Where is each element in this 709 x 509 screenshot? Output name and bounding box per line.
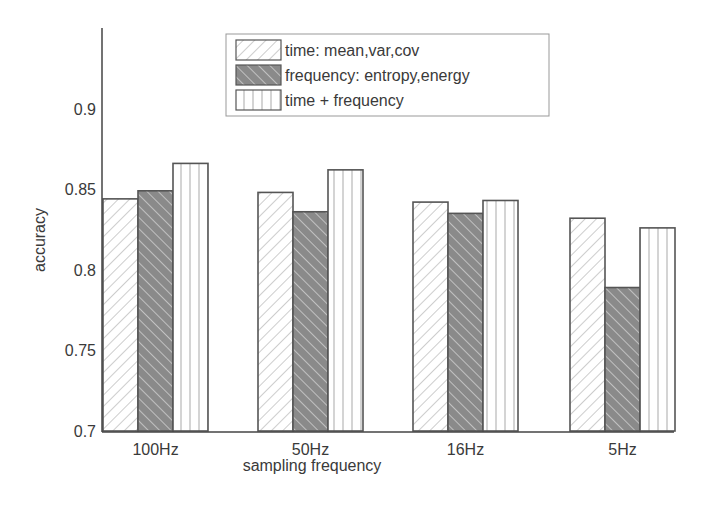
bar-100hz-series-3: [173, 163, 208, 431]
bar-50hz-series-3: [328, 170, 363, 431]
x-axis-label: sampling frequency: [243, 457, 382, 474]
legend-swatch-hatch-dark-icon: [236, 65, 281, 85]
y-axis-label: accuracy: [31, 208, 48, 272]
y-tick-label: 0.7: [74, 423, 96, 440]
legend-swatch-vertical-lines-icon: [236, 90, 281, 110]
legend-label: time: mean,var,cov: [285, 42, 419, 59]
legend: time: mean,var,cov frequency: entropy,en…: [226, 34, 549, 116]
bar-5hz-series-2: [605, 288, 640, 431]
y-tick-labels: 0.70.750.80.850.9: [65, 101, 96, 440]
bar-50hz-series-2: [293, 212, 328, 431]
legend-item-time-plus-frequency: time + frequency: [236, 90, 404, 110]
bar-16hz-series-1: [413, 202, 448, 431]
bar-16hz-series-3: [483, 200, 518, 431]
bar-5hz-series-1: [570, 218, 605, 431]
legend-item-frequency: frequency: entropy,energy: [236, 65, 470, 85]
y-tick-label: 0.9: [74, 101, 96, 118]
legend-item-time: time: mean,var,cov: [236, 40, 419, 60]
bar-5hz-series-3: [640, 228, 675, 431]
y-tick-label: 0.75: [65, 342, 96, 359]
bar-100hz-series-2: [138, 191, 173, 431]
bar-chart: 0.70.750.80.850.9 100Hz50Hz16Hz5Hz sampl…: [0, 0, 709, 509]
bar-50hz-series-1: [258, 192, 293, 431]
legend-label: frequency: entropy,energy: [285, 67, 470, 84]
x-tick-label: 100Hz: [132, 441, 178, 458]
legend-label: time + frequency: [285, 92, 404, 109]
bars-group: [103, 163, 675, 431]
legend-swatch-hatch-light-icon: [236, 40, 281, 60]
y-tick-label: 0.85: [65, 181, 96, 198]
x-tick-labels: 100Hz50Hz16Hz5Hz: [132, 441, 636, 458]
x-tick-label: 5Hz: [608, 441, 636, 458]
x-tick-label: 16Hz: [447, 441, 484, 458]
x-tick-label: 50Hz: [292, 441, 329, 458]
bar-16hz-series-2: [448, 213, 483, 431]
bar-100hz-series-1: [103, 199, 138, 431]
y-tick-label: 0.8: [74, 262, 96, 279]
